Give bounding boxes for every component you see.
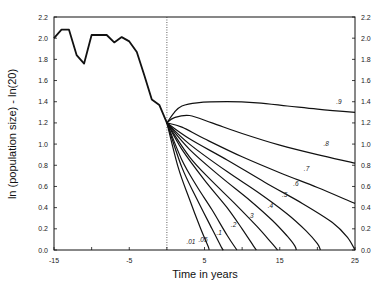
curve-label-p3: .3 <box>248 212 254 219</box>
x-tick-label: 15 <box>276 257 284 264</box>
curve-label-p7: .7 <box>304 165 310 172</box>
y-tick-label-right: 0.6 <box>361 183 371 190</box>
curve-label-p5: .5 <box>282 191 288 198</box>
y-tick-label-right: 0.8 <box>361 162 371 169</box>
y-tick-label-right: 1.8 <box>361 56 371 63</box>
y-tick-label-right: 1.6 <box>361 77 371 84</box>
y-tick-label-left: 0.6 <box>38 183 48 190</box>
y-tick-label-left: 1.2 <box>38 119 48 126</box>
projection-line-p3 <box>167 123 278 250</box>
series-layer <box>54 30 355 250</box>
curve-label-p2: .2 <box>231 221 237 228</box>
y-tick-label-right: 0.0 <box>361 247 371 254</box>
y-tick-label-left: 1.4 <box>38 98 48 105</box>
y-tick-label-right: 1.4 <box>361 98 371 105</box>
y-tick-label-left: 0.0 <box>38 247 48 254</box>
y-tick-label-left: 0.8 <box>38 162 48 169</box>
y-tick-label-right: 2.2 <box>361 14 371 21</box>
y-tick-label-left: 1.0 <box>38 141 48 148</box>
observed-series-line <box>54 30 167 123</box>
curve-label-p8: .8 <box>323 140 329 147</box>
y-axis-title: ln (population size) - ln(20) <box>6 69 18 199</box>
y-tick-label-left: 1.8 <box>38 56 48 63</box>
curve-label-p6: .6 <box>293 180 299 187</box>
x-tick-label: 25 <box>351 257 359 264</box>
y-tick-label-right: 0.4 <box>361 204 371 211</box>
y-tick-label-left: 0.2 <box>38 225 48 232</box>
curve-label-p1: .1 <box>217 229 223 236</box>
x-tick-label: -15 <box>49 257 59 264</box>
curve-label-p05: .05 <box>198 236 207 243</box>
y-tick-label-left: 1.6 <box>38 77 48 84</box>
y-tick-label-right: 1.0 <box>361 141 371 148</box>
projection-line-p9 <box>167 102 355 123</box>
curve-label-p9: .9 <box>336 98 342 105</box>
curve-label-p01: .01 <box>186 238 195 245</box>
curve-labels: .9.8.7.6.5.4.3.2.1.05.01 <box>186 98 342 245</box>
x-axis-title: Time in years <box>172 268 238 280</box>
x-tick-label: -5 <box>126 257 132 264</box>
y-tick-label-left: 2.2 <box>38 14 48 21</box>
chart: 0.00.20.40.60.81.01.21.41.61.82.02.2 0.0… <box>0 0 383 299</box>
y-tick-label-left: 0.4 <box>38 204 48 211</box>
y-tick-label-left: 2.0 <box>38 35 48 42</box>
x-tick-label: 5 <box>203 257 207 264</box>
curve-label-p4: .4 <box>268 202 274 209</box>
y-tick-label-right: 2.0 <box>361 35 371 42</box>
y-tick-label-right: 1.2 <box>361 119 371 126</box>
y-tick-label-right: 0.2 <box>361 225 371 232</box>
